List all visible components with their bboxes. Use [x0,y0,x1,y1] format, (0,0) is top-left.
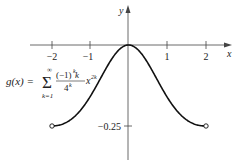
tick-label-1: 1 [165,51,170,62]
y-axis-label: y [118,5,124,16]
tick-label-neg2: −2 [47,51,58,62]
open-endpoint-left [50,124,54,128]
y-axis-arrow-icon [126,5,131,13]
x-exp: 2k [91,74,97,80]
tick-label-2: 2 [204,51,209,62]
sum-lower: k=1 [42,92,53,100]
x-axis-label: x [226,48,232,59]
denominator-exp: k [69,82,72,88]
formula-lhs: g(x) = [6,75,34,88]
open-endpoint-right [204,124,208,128]
plot: −2 −1 1 2 −0.25 x y g(x) = Σ ∞ k=1 (−1) … [0,0,240,165]
sum-symbol: Σ [42,73,52,92]
sum-upper: ∞ [47,66,52,74]
curve-g [52,45,206,126]
numerator-k: k [75,70,80,80]
numerator: (−1) [56,70,72,80]
tick-label-y: −0.25 [98,121,121,132]
formula: g(x) = Σ ∞ k=1 (−1) k k 4 k x 2k [6,66,97,100]
tick-label-neg1: −1 [83,51,94,62]
x-axis-arrow-icon [224,43,232,48]
